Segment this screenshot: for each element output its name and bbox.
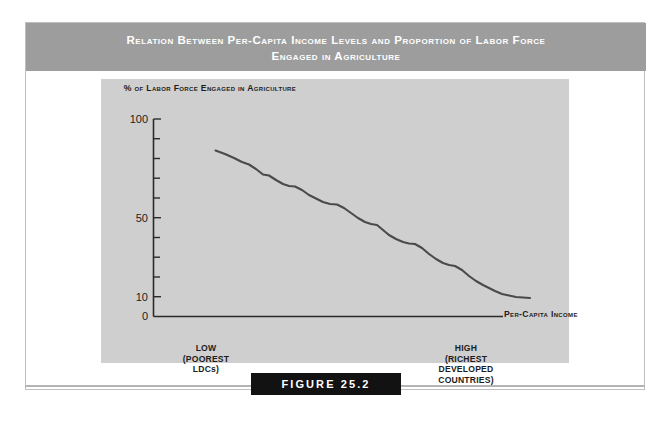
x-axis-label-low-line-1: LOW <box>146 343 266 354</box>
y-tick-label-100: 100 <box>130 113 148 125</box>
y-tick-label-10: 10 <box>136 291 148 303</box>
figure-caption-area: FIGURE 25.2 <box>25 373 645 399</box>
x-axis-label-low: LOW (POOREST LDCs) <box>146 343 266 375</box>
x-axis-label-high-line-2: (RICHEST <box>406 354 526 365</box>
x-axis-label-high-line-1: HIGH <box>406 343 526 354</box>
chart-svg: 100 50 10 0 <box>26 23 646 391</box>
figure-card: Relation Between Per-Capita Income Level… <box>25 22 645 390</box>
y-tick-label-50: 50 <box>136 212 148 224</box>
x-axis-title: Per-Capita Income <box>504 309 614 320</box>
y-axis-ticks <box>154 119 162 297</box>
figure-caption-label: FIGURE 25.2 <box>251 373 401 395</box>
agriculture-labor-curve <box>216 151 531 299</box>
y-axis-title: % of Labor Force Engaged in Agriculture <box>120 83 300 94</box>
y-tick-label-0: 0 <box>142 310 148 322</box>
x-axis-label-low-line-2: (POOREST <box>146 354 266 365</box>
